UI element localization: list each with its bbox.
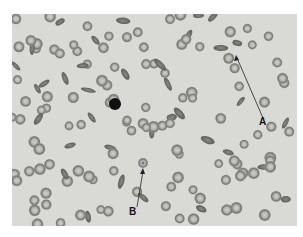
label-b: B	[129, 206, 136, 217]
arrow-a-head	[234, 55, 239, 61]
label-a: A	[259, 116, 266, 127]
annotation-layer	[0, 0, 303, 237]
arrow-b	[137, 171, 143, 207]
arrow-a	[237, 58, 263, 118]
arrow-b-head	[140, 168, 145, 174]
